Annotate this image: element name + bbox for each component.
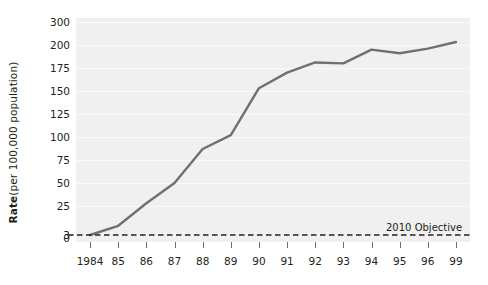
line-chart: Rate (per 100,000 population) 3002001751… [0, 0, 488, 285]
objective-annotation-label: 2010 Objective [386, 222, 462, 233]
rate-series-line [90, 42, 456, 235]
series-overlay [0, 0, 488, 285]
